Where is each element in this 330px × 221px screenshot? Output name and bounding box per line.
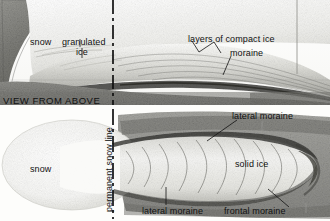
- glacier-diagram: snow granulated ice layers of compact ic…: [0, 0, 330, 221]
- label-solid-ice: solid ice: [235, 159, 268, 169]
- label-permanent-snow-line: permanent snow line: [104, 127, 114, 212]
- profile-illustration: [0, 0, 330, 105]
- label-lateral-moraine-lower: lateral moraine: [142, 206, 203, 216]
- label-granulated-ice-line2: ice: [76, 47, 88, 57]
- panel-profile-view: snow granulated ice layers of compact ic…: [0, 0, 330, 105]
- caption-view-from-above: VIEW FROM ABOVE: [3, 96, 100, 106]
- label-frontal-moraine: frontal moraine: [224, 206, 286, 216]
- panel-plan-view: snow permanent snow line lateral moraine…: [0, 107, 330, 221]
- label-layers-of-compact-ice: layers of compact ice: [188, 34, 275, 44]
- label-lateral-moraine-upper: lateral moraine: [232, 111, 293, 121]
- label-snow-profile: snow: [30, 37, 51, 47]
- label-granulated-ice-line1: granulated: [62, 37, 106, 47]
- label-moraine: moraine: [230, 48, 263, 58]
- label-snow-plan: snow: [30, 164, 51, 174]
